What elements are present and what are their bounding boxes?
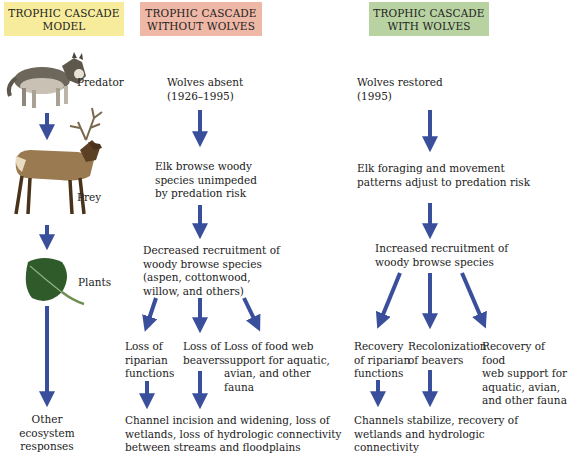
arrow-with-branch-3 [462,273,483,322]
with-step-wolves-restored: Wolves restored (1995) [357,76,443,103]
label-predator: Predator [77,76,124,88]
arrow-without-branch-3 [244,298,257,325]
wolf-icon [9,52,86,108]
without-branch-beavers: Loss of beavers [183,340,225,367]
without-branch-riparian: Loss of riparian functions [125,340,174,381]
with-branch-food-web: Recovery of food web support for aquatic… [482,340,570,408]
with-branch-riparian: Recovery of riparian functions [354,340,410,381]
arrow-with-branch-1 [380,273,400,322]
with-outcome: Channels stabilize, recovery of wetlands… [354,414,518,455]
without-step-elk-browse: Elk browse woody species unimpeded by pr… [155,160,257,201]
without-step-wolves-absent: Wolves absent (1926–1995) [167,76,243,103]
with-branch-beavers: Recolonization of beavers [408,340,487,367]
without-outcome: Channel incision and widening, loss of w… [125,414,342,455]
with-step-increased-recruitment: Increased recruitment of woody browse sp… [375,242,508,269]
arrow-without-branch-1 [147,298,156,325]
without-branch-food-web: Loss of food web support for aquatic, av… [224,340,330,394]
label-prey: Prey [77,191,101,203]
with-step-elk-foraging: Elk foraging and movement patterns adjus… [357,162,530,189]
label-other-ecosystem-responses: Other ecosystem responses [6,413,88,454]
aspen-leaf-icon [26,258,84,304]
label-plants: Plants [78,276,111,288]
without-step-decreased-recruitment: Decreased recruitment of woody browse sp… [143,244,280,298]
